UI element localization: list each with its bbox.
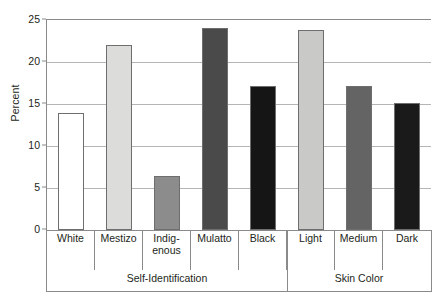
y-axis-tick-labels: 0510152025 [0,0,40,293]
category-label: Mestizo [100,233,136,245]
category-label: Light [299,233,322,245]
category-label: Black [250,233,276,245]
y-tick-label: 15 [0,97,40,109]
category-cell: Light [287,230,335,270]
plot-area [46,19,431,230]
y-tick-label: 20 [0,55,40,67]
bar [346,86,372,230]
category-cell: White [47,230,95,270]
category-cell: Mestizo [95,230,143,270]
y-tick-label: 25 [0,13,40,25]
category-label-band: WhiteMestizoIndig- enousMulattoBlackLigh… [46,230,432,292]
category-label: Dark [396,233,418,245]
bar [202,28,228,230]
y-tick-label: 0 [0,223,40,235]
category-label: White [57,233,84,245]
bar [394,103,420,230]
category-label: Mulatto [197,233,231,245]
y-tick-label: 5 [0,181,40,193]
category-label: Medium [340,233,377,245]
bar-chart-figure: Percent 0510152025 WhiteMestizoIndig- en… [0,0,442,293]
bar [154,176,180,230]
bar [58,113,84,230]
y-tick-label: 10 [0,139,40,151]
bar [298,30,324,230]
category-cell: Dark [383,230,431,270]
category-label: Indig- enous [152,233,181,256]
category-cell: Black [239,230,287,270]
bar-series [47,20,431,230]
category-cell: Mulatto [191,230,239,270]
bar [106,45,132,230]
group-label: Skin Color [287,272,431,284]
bar [250,86,276,230]
group-label: Self-Identification [47,272,287,284]
category-cell: Indig- enous [143,230,191,270]
category-cell: Medium [335,230,383,270]
